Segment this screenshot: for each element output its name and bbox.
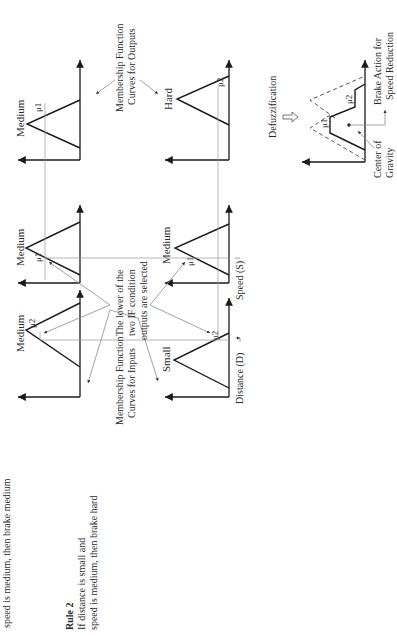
speed-axis-label: Speed (S): [234, 261, 246, 300]
pointers: [44, 80, 210, 383]
defuzzification-panel: Defuzzification μ1 μ2 Center of Gravity …: [267, 32, 395, 178]
rule2-line2: speed is medium, then brake hard: [88, 496, 99, 630]
inputs-curves-line2: Curves for Inputs: [126, 348, 137, 418]
brake-line1: Brake Action for: [372, 37, 383, 105]
lower-outputs-annotation: The lower of the two IF condition output…: [114, 261, 149, 340]
lower-line1: The lower of the: [114, 269, 125, 336]
cog-line1: Center of: [372, 140, 383, 178]
fuzzy-inference-diagram: speed is medium, then brake medium Rule …: [0, 0, 397, 635]
rule1-output-mu: μ1: [33, 103, 43, 112]
rule1-distance-panel: Medium μ2: [14, 290, 80, 397]
outputs-curves-line2: Curves for Outputs: [126, 28, 137, 105]
rule1-output-panel: Medium μ1: [14, 60, 80, 160]
rule1-speed-label: Medium: [14, 228, 26, 266]
rule2-distance-mu: μ2: [210, 331, 220, 340]
rule2-speed-panel: Medium μ1 Speed (S): [160, 205, 246, 300]
rule2-output-mu: μ2: [215, 78, 225, 87]
inputs-curves-annotation: Membership Function Curves for Inputs: [114, 336, 137, 425]
rule1-tail-text: speed is medium, then brake medium: [1, 478, 12, 628]
rule1-speed-panel: Medium μ1: [14, 205, 80, 283]
rule2-text: Rule 2 If distance is small and speed is…: [64, 496, 99, 630]
rule2-line1: If distance is small and: [76, 538, 87, 630]
outputs-curves-line1: Membership Function: [114, 23, 125, 112]
rule2-distance-label: Small: [160, 346, 172, 372]
outputs-curves-annotation: Membership Function Curves for Outputs: [114, 23, 137, 112]
rule1-distance-mu: μ2: [27, 319, 37, 328]
rule2-distance-panel: Small μ2 Distance (D): [160, 298, 246, 404]
brake-line2: Speed Reduction: [384, 32, 395, 100]
lower-line3: outputs are selected: [138, 261, 149, 340]
defuzz-label: Defuzzification: [267, 76, 278, 138]
defuzz-mu1: μ1: [319, 119, 329, 128]
defuzz-mu2: μ2: [344, 95, 354, 104]
rule2-output-panel: Hard μ2: [162, 60, 229, 160]
rule1-output-label: Medium: [14, 99, 26, 137]
rule1-distance-label: Medium: [14, 314, 26, 352]
rule2-output-label: Hard: [162, 88, 174, 110]
rule2-title: Rule 2: [64, 603, 75, 631]
lower-line2: two IF condition: [126, 269, 137, 336]
cog-line2: Gravity: [384, 147, 395, 178]
rule1-speed-mu: μ1: [33, 253, 43, 262]
inputs-curves-line1: Membership Function: [114, 336, 125, 425]
distance-axis-label: Distance (D): [234, 353, 246, 404]
hollow-arrow-icon: [283, 112, 298, 122]
